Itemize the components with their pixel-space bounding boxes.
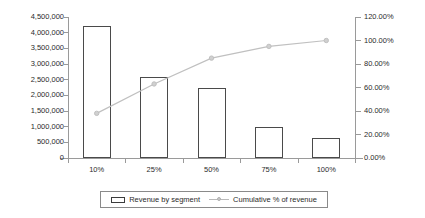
left-axis-tick-label: 4,000,000 bbox=[31, 29, 64, 37]
right-axis-tick bbox=[356, 134, 361, 135]
right-axis-tick bbox=[356, 40, 361, 41]
category-axis-label: 25% bbox=[125, 165, 182, 174]
bar bbox=[140, 77, 168, 158]
right-axis-tick bbox=[356, 17, 361, 18]
category-axis-tick bbox=[183, 158, 184, 163]
category-axis-tick bbox=[125, 158, 126, 163]
left-axis-tick-label: 2,500,000 bbox=[31, 76, 64, 84]
cumulative-line-marker bbox=[267, 44, 271, 48]
bar bbox=[83, 26, 111, 158]
category-axis-label: 100% bbox=[298, 165, 355, 174]
right-axis-tick-label: 0.00% bbox=[364, 154, 385, 162]
left-axis-tick bbox=[64, 79, 69, 80]
left-axis-tick bbox=[64, 95, 69, 96]
left-axis-tick bbox=[64, 111, 69, 112]
cumulative-line-marker bbox=[209, 56, 213, 60]
legend-item-cumulative-percent: Cumulative % of revenue bbox=[209, 195, 317, 204]
bar bbox=[255, 127, 283, 158]
left-axis-tick bbox=[64, 142, 69, 143]
category-axis-tick bbox=[240, 158, 241, 163]
bar-swatch-icon bbox=[111, 197, 125, 203]
right-axis-tick-label: 100.00% bbox=[364, 37, 394, 45]
left-axis-tick bbox=[64, 17, 69, 18]
left-axis-tick-label: 0 bbox=[60, 154, 64, 162]
left-axis-tick-label: 500,000 bbox=[37, 138, 64, 146]
category-axis-tick bbox=[298, 158, 299, 163]
line-marker-icon bbox=[209, 196, 229, 203]
bar bbox=[312, 138, 340, 158]
right-axis-tick-label: 60.00% bbox=[364, 84, 389, 92]
right-axis-tick-label: 20.00% bbox=[364, 131, 389, 139]
chart-legend: Revenue by segment Cumulative % of reven… bbox=[100, 191, 328, 208]
pareto-chart: 4,500,0004,000,0003,500,0003,000,0002,50… bbox=[0, 0, 425, 218]
right-axis-tick bbox=[356, 158, 361, 159]
category-axis-line bbox=[60, 158, 363, 159]
left-axis-tick-label: 3,000,000 bbox=[31, 60, 64, 68]
legend-label-cumulative-percent: Cumulative % of revenue bbox=[233, 195, 317, 204]
right-axis-tick-label: 120.00% bbox=[364, 13, 394, 21]
left-axis-tick-label: 1,000,000 bbox=[31, 123, 64, 131]
right-axis-tick-label: 80.00% bbox=[364, 60, 389, 68]
left-axis-tick bbox=[64, 48, 69, 49]
cumulative-line-marker bbox=[324, 38, 328, 42]
category-axis-label: 75% bbox=[240, 165, 297, 174]
right-percent-axis-line bbox=[355, 17, 356, 159]
left-axis-tick bbox=[64, 32, 69, 33]
category-axis-tick bbox=[355, 158, 356, 163]
bar bbox=[198, 88, 226, 158]
left-axis-tick-label: 4,500,000 bbox=[31, 13, 64, 21]
right-axis-tick bbox=[356, 111, 361, 112]
legend-item-revenue-by-segment: Revenue by segment bbox=[111, 195, 200, 204]
right-axis-tick bbox=[356, 64, 361, 65]
left-axis-tick-label: 1,500,000 bbox=[31, 107, 64, 115]
right-axis-tick-label: 40.00% bbox=[364, 107, 389, 115]
left-axis-tick-label: 3,500,000 bbox=[31, 44, 64, 52]
category-axis-label: 50% bbox=[183, 165, 240, 174]
category-axis-tick bbox=[68, 158, 69, 163]
left-axis-tick bbox=[64, 64, 69, 65]
right-axis-tick bbox=[356, 87, 361, 88]
category-axis-label: 10% bbox=[68, 165, 125, 174]
left-axis-tick-label: 2,000,000 bbox=[31, 91, 64, 99]
left-value-axis-line bbox=[68, 17, 69, 159]
left-axis-tick bbox=[64, 126, 69, 127]
legend-label-revenue-by-segment: Revenue by segment bbox=[129, 195, 200, 204]
